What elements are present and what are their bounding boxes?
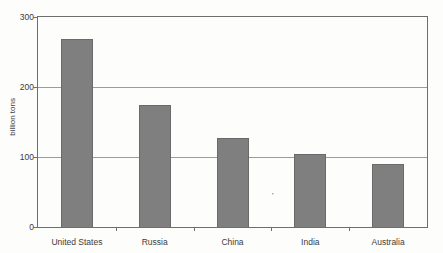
x-category-label: Russia	[116, 237, 194, 247]
y-tick-mark	[33, 17, 37, 18]
bar-india	[294, 154, 326, 227]
y-tick-mark	[33, 227, 37, 228]
y-axis-title: billion tons	[8, 98, 17, 136]
bar-chart: billion tons 0100200300 United StatesRus…	[0, 0, 443, 253]
x-tick-mark	[116, 228, 117, 231]
bar-australia	[372, 164, 404, 227]
x-tick-mark	[194, 228, 195, 231]
y-tick-mark	[33, 87, 37, 88]
x-category-label: China	[194, 237, 272, 247]
x-tick-mark	[349, 228, 350, 231]
y-tick-label: 100	[11, 152, 34, 162]
scan-artifact-mark: '	[272, 191, 274, 200]
y-tick-label: 0	[11, 222, 34, 232]
y-tick-mark	[33, 157, 37, 158]
x-tick-mark	[271, 228, 272, 231]
x-category-label: India	[271, 237, 349, 247]
bar-china	[217, 138, 249, 227]
bar-united-states	[61, 39, 93, 227]
x-category-label: Australia	[349, 237, 427, 247]
y-tick-label: 200	[11, 82, 34, 92]
x-category-label: United States	[38, 237, 116, 247]
bar-russia	[139, 105, 171, 227]
plot-area	[37, 16, 428, 228]
y-tick-label: 300	[11, 12, 34, 22]
gridline	[38, 87, 427, 88]
